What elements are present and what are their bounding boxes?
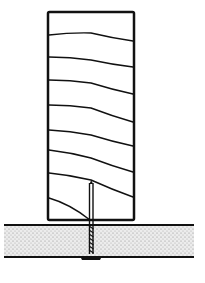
stud-outline [48, 12, 134, 220]
screw-head [80, 256, 102, 260]
panel-stipple-fill [4, 225, 194, 257]
stud-screw-section-diagram [0, 0, 205, 283]
panel-board [4, 225, 194, 257]
wood-stud [48, 12, 134, 220]
